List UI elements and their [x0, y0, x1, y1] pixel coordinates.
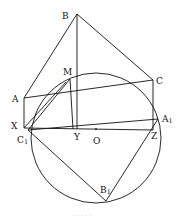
- segment-BC: [77, 14, 153, 80]
- segment-AB: [24, 14, 77, 98]
- center-point-O: [95, 128, 97, 130]
- segment-C1A1: [28, 119, 158, 130]
- label-A1: A1: [161, 114, 173, 125]
- segment-XM: [24, 82, 66, 128]
- segment-MY: [70, 79, 73, 129]
- label-B1: B1: [100, 185, 111, 196]
- figure-caption: · · · · ·: [72, 212, 92, 219]
- segment-C1M: [28, 79, 70, 130]
- label-X: X: [11, 121, 18, 131]
- segment-AC: [24, 80, 153, 98]
- label-Z: Z: [151, 131, 157, 141]
- label-B: B: [62, 11, 69, 21]
- geometry-diagram: B M C A X C1 Y A1 Z O B1 · · · · ·: [0, 0, 178, 219]
- label-C: C: [156, 76, 163, 86]
- label-M: M: [63, 67, 72, 77]
- label-C1: C1: [17, 135, 28, 146]
- label-Y: Y: [73, 132, 81, 142]
- label-A: A: [11, 94, 19, 104]
- label-O: O: [93, 136, 100, 146]
